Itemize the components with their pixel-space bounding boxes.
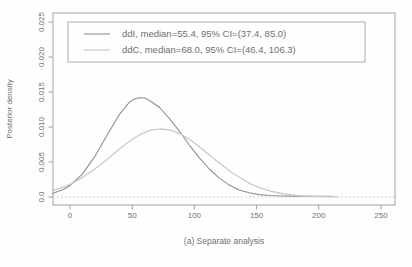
x-tick-label: 250 <box>374 211 388 220</box>
curve-ddi <box>53 98 332 197</box>
x-tick-label: 0 <box>68 211 73 220</box>
legend-box: ddI, median=55.4, 95% CI=(37.4, 85.0) dd… <box>68 22 365 62</box>
plot-canvas: 050100150200250 0.00.0050.0100.0150.0200… <box>0 0 412 267</box>
y-tick-label: 0.025 <box>37 12 46 33</box>
y-tick-label: 0.015 <box>37 82 46 103</box>
x-tick-label: 200 <box>312 211 326 220</box>
x-tick-label: 150 <box>250 211 264 220</box>
figure-caption: (a) Separate analysis <box>184 236 264 246</box>
y-axis-title: Posterior density <box>5 79 14 139</box>
y-tick-label: 0.0 <box>37 191 46 203</box>
x-tick-label: 50 <box>128 211 137 220</box>
y-axis-ticks: 0.00.0050.0100.0150.0200.025 <box>37 12 53 203</box>
y-tick-label: 0.005 <box>37 151 46 172</box>
x-axis-ticks: 050100150200250 <box>68 205 388 220</box>
y-tick-label: 0.020 <box>37 47 46 68</box>
density-curves <box>53 98 338 197</box>
legend-label-ddc: ddC, median=68.0, 95% CI=(46.4, 106.3) <box>122 44 296 55</box>
y-tick-label: 0.010 <box>37 116 46 137</box>
density-plot-figure: 050100150200250 0.00.0050.0100.0150.0200… <box>0 0 412 267</box>
legend-label-ddi: ddI, median=55.4, 95% CI=(37.4, 85.0) <box>122 28 286 39</box>
curve-ddc <box>53 129 338 197</box>
x-tick-label: 100 <box>188 211 202 220</box>
